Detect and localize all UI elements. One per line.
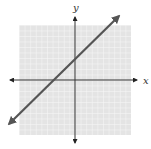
y-axis-label: y — [72, 2, 79, 13]
x-axis-label: x — [143, 75, 149, 86]
coordinate-plane: y x — [0, 0, 151, 149]
